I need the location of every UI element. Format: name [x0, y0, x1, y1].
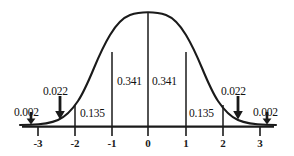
- region-label-1-to-2: 0.135: [189, 108, 214, 120]
- pointer-arrow-right-0-022: [233, 96, 243, 120]
- axis-tick-label-2: 2: [220, 138, 225, 149]
- normal-distribution-figure: 0.002 0.022 0.135 0.341 0.341 0.135 0.02…: [0, 0, 294, 156]
- region-label-below-minus-3: 0.002: [14, 107, 39, 119]
- region-label-0-to-1: 0.341: [152, 76, 177, 88]
- axis-tick-label-0: 0: [145, 138, 150, 149]
- region-label-minus-2-to-minus-1: 0.135: [80, 108, 105, 120]
- distribution-chart-svg: [0, 0, 294, 156]
- axis-tick-label-1: 1: [183, 138, 188, 149]
- region-label-2-to-3: 0.022: [221, 86, 246, 98]
- region-label-minus-1-to-0: 0.341: [117, 76, 142, 88]
- axis-tick-label-minus-2: -2: [71, 138, 80, 149]
- region-label-above-3: 0.002: [253, 107, 278, 119]
- axis-tick-label-3: 3: [257, 138, 262, 149]
- region-label-minus-3-to-minus-2: 0.022: [43, 86, 68, 98]
- axis-tick-label-minus-3: -3: [34, 138, 43, 149]
- axis-tick-label-minus-1: -1: [108, 138, 117, 149]
